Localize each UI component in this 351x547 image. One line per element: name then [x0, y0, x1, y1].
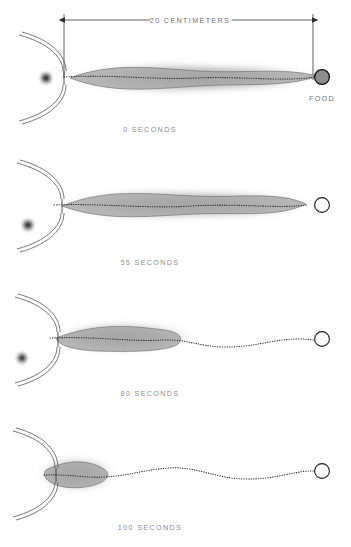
panel-55-caption: 55 SECONDS — [120, 258, 179, 267]
timelapse-figure: 20 CENTIMETERS — [0, 0, 351, 547]
food-label: FOOD — [309, 94, 335, 103]
panel-80-organism-marker — [17, 353, 27, 363]
panel-55-food-circle — [315, 198, 330, 213]
figure-stage: 20 CENTIMETERS — [0, 0, 351, 547]
panel-100-food-circle — [315, 464, 330, 479]
panel-0-food-circle — [315, 70, 330, 85]
scale-bar-label: 20 CENTIMETERS — [150, 16, 230, 25]
panel-0-caption: 0 SECONDS — [123, 125, 177, 134]
panel-80-food-circle — [315, 332, 330, 347]
panel-100-caption: 100 SECONDS — [118, 523, 182, 532]
panel-55-organism-marker — [23, 220, 34, 231]
panel-80-caption: 80 SECONDS — [120, 389, 179, 398]
panel-0-organism-marker — [41, 73, 52, 84]
